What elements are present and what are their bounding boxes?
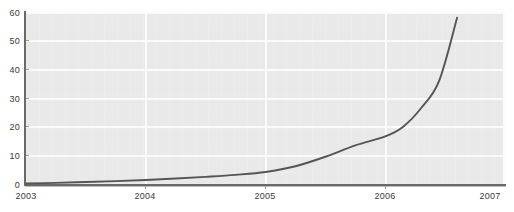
y-tick-mark-20 xyxy=(26,126,29,127)
y-tick-label-50: 50 xyxy=(0,37,20,46)
y-tick-label-20: 20 xyxy=(0,123,20,132)
x-tick-mark-2004 xyxy=(145,186,146,189)
x-tick-label-2006: 2006 xyxy=(363,191,407,201)
gridline-vertical-2006 xyxy=(385,12,387,184)
x-tick-label-2003: 2003 xyxy=(4,191,48,201)
y-tick-mark-30 xyxy=(26,98,29,99)
plot-area xyxy=(26,12,505,184)
y-tick-label-10: 10 xyxy=(0,152,20,161)
y-tick-label-40: 40 xyxy=(0,66,20,75)
y-tick-mark-40 xyxy=(26,69,29,70)
gridline-vertical-2005 xyxy=(265,12,267,184)
y-tick-label-30: 30 xyxy=(0,95,20,104)
line-chart: 60 50 40 30 20 10 0 2003 2004 2005 2006 … xyxy=(0,0,514,212)
y-tick-mark-10 xyxy=(26,155,29,156)
x-tick-mark-2006 xyxy=(385,186,386,189)
y-tick-label-0: 0 xyxy=(0,181,20,190)
x-tick-label-2007: 2007 xyxy=(468,191,512,201)
gridline-vertical-2007 xyxy=(503,12,505,184)
x-tick-mark-2005 xyxy=(265,186,266,189)
y-tick-label-60: 60 xyxy=(0,9,20,18)
gridline-vertical-2004 xyxy=(145,12,147,184)
x-tick-label-2005: 2005 xyxy=(243,191,287,201)
x-tick-label-2004: 2004 xyxy=(123,191,167,201)
y-tick-mark-50 xyxy=(26,40,29,41)
